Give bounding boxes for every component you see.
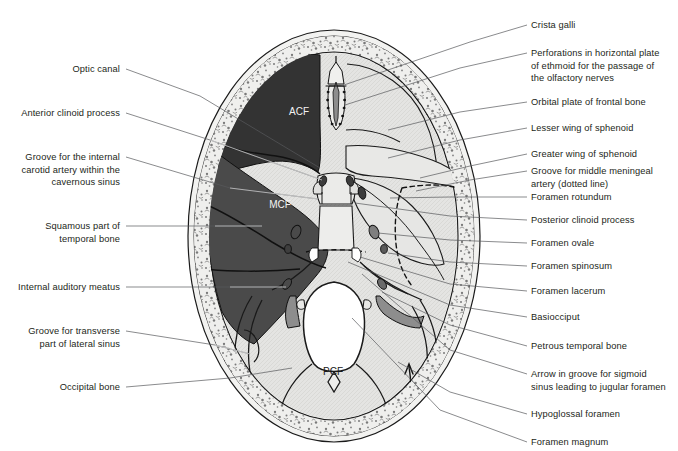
label-squamous-part-temporal-bone: Squamous part of temporal bone — [0, 220, 120, 245]
fossa-label-mcf: MCF — [269, 199, 291, 210]
label-basiocciput: Basiocciput — [531, 311, 678, 324]
label-groove-transverse-lateral-sinus: Groove for transverse part of lateral si… — [0, 325, 120, 350]
label-groove-internal-carotid-artery: Groove for the internal carotid artery w… — [0, 151, 120, 189]
label-foramen-spinosum: Foramen spinosum — [531, 260, 678, 273]
label-internal-auditory-meatus: Internal auditory meatus — [0, 281, 120, 294]
label-foramen-ovale: Foramen ovale — [531, 237, 678, 250]
label-petrous-temporal-bone: Petrous temporal bone — [531, 340, 678, 353]
label-foramen-rotundum: Foramen rotundum — [531, 191, 678, 204]
label-occipital-bone: Occipital bone — [0, 381, 120, 394]
fossa-label-pcf: PCF — [323, 366, 343, 377]
label-perforations-ethmoid: Perforations in horizontal plate of ethm… — [531, 47, 678, 85]
label-posterior-clinoid-process: Posterior clinoid process — [531, 214, 678, 227]
label-lesser-wing-sphenoid: Lesser wing of sphenoid — [531, 122, 678, 135]
figure-canvas: ACFMCFPCF Optic canalAnterior clinoid pr… — [0, 0, 678, 451]
label-orbital-plate-frontal-bone: Orbital plate of frontal bone — [531, 96, 678, 109]
label-optic-canal: Optic canal — [0, 63, 120, 76]
fossa-label-acf: ACF — [289, 106, 309, 117]
label-foramen-lacerum: Foramen lacerum — [531, 285, 678, 298]
label-anterior-clinoid-process: Anterior clinoid process — [0, 107, 120, 120]
label-foramen-magnum: Foramen magnum — [531, 436, 678, 449]
label-arrow-sigmoid-sinus-jugular-foramen: Arrow in groove for sigmoid sinus leadin… — [531, 368, 678, 393]
label-groove-middle-meningeal-artery: Groove for middle meningeal artery (dott… — [531, 165, 678, 190]
label-crista-galli: Crista galli — [531, 19, 678, 32]
label-greater-wing-sphenoid: Greater wing of sphenoid — [531, 148, 678, 161]
label-hypoglossal-foramen: Hypoglossal foramen — [531, 408, 678, 421]
